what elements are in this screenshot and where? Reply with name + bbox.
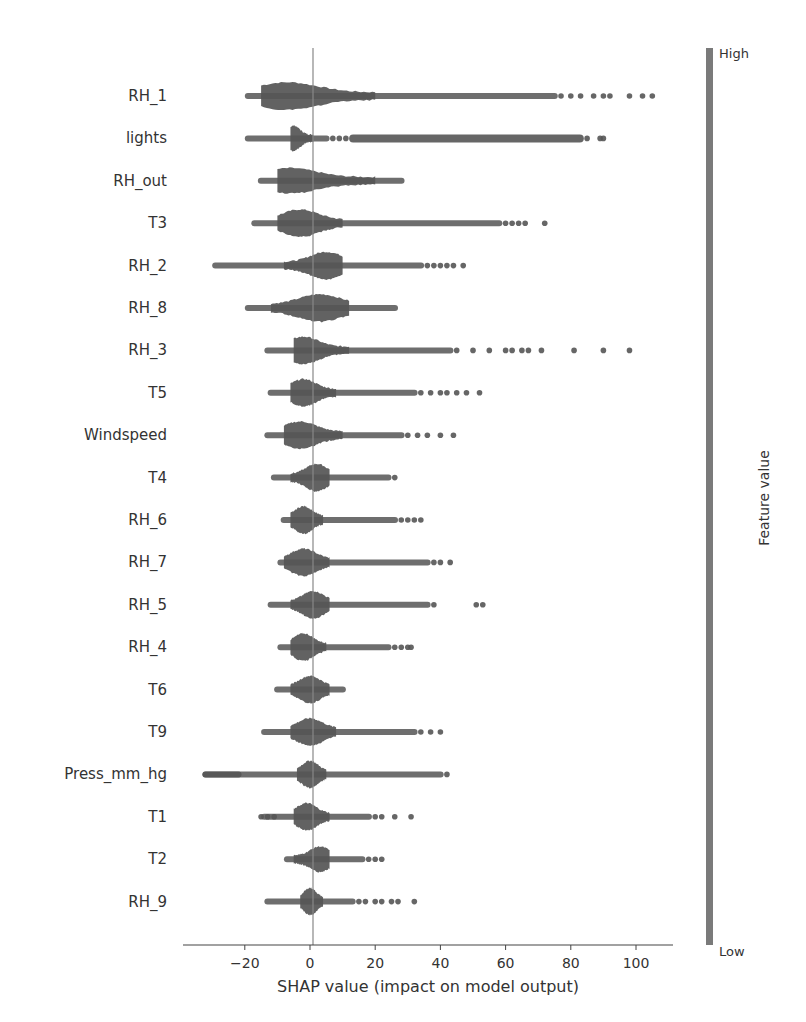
- feature-row: [277, 633, 413, 661]
- feature-label: RH_8: [128, 299, 167, 318]
- x-tick-label: 100: [623, 955, 650, 971]
- colorbar-low-label: Low: [719, 944, 745, 959]
- feature-row: [245, 294, 398, 322]
- feature-label: RH_3: [128, 341, 167, 360]
- feature-row: [251, 209, 547, 237]
- feature-row: [212, 252, 466, 280]
- beeswarm-points: [202, 82, 655, 916]
- feature-label: T4: [147, 469, 167, 487]
- colorbar: [706, 48, 713, 945]
- feature-row: [264, 421, 456, 449]
- feature-label: Press_mm_hg: [64, 765, 167, 784]
- feature-label: RH_4: [128, 638, 167, 657]
- feature-row: [264, 336, 632, 364]
- feature-label: RH_7: [128, 553, 167, 572]
- x-tick-label: −20: [230, 955, 260, 971]
- feature-row: [271, 463, 398, 491]
- feature-row: [245, 82, 655, 110]
- shap-summary-plot: RH_1lightsRH_outT3RH_2RH_8RH_3T5Windspee…: [0, 0, 806, 1022]
- feature-label: RH_6: [128, 511, 167, 530]
- feature-row: [268, 378, 483, 407]
- feature-row: [277, 548, 453, 576]
- feature-label: T6: [147, 681, 167, 699]
- x-axis-ticks: −20020406080100: [230, 945, 649, 971]
- x-tick-label: 20: [366, 955, 384, 971]
- x-tick-label: 60: [497, 955, 515, 971]
- feature-row: [268, 591, 486, 619]
- colorbar-title: Feature value: [756, 450, 772, 546]
- feature-label: T3: [147, 214, 167, 232]
- feature-label: RH_2: [128, 257, 167, 276]
- x-tick-label: 0: [306, 955, 315, 971]
- x-axis-title: SHAP value (impact on model output): [277, 977, 579, 996]
- feature-row: [258, 803, 414, 831]
- feature-label: RH_9: [128, 893, 167, 912]
- feature-label: T5: [147, 384, 167, 402]
- feature-row: [258, 167, 405, 194]
- feature-row: [261, 718, 443, 746]
- feature-row: [245, 125, 606, 152]
- feature-row: [281, 506, 424, 535]
- feature-row: [274, 675, 346, 704]
- feature-label: RH_5: [128, 596, 167, 615]
- feature-label: T2: [147, 850, 167, 868]
- feature-row: [202, 760, 449, 789]
- feature-label: T1: [147, 808, 167, 826]
- colorbar-high-label: High: [719, 46, 749, 61]
- feature-label: RH_out: [113, 172, 167, 191]
- feature-row: [264, 887, 417, 916]
- feature-row: [284, 846, 385, 873]
- feature-label: lights: [126, 129, 167, 147]
- feature-label: Windspeed: [84, 426, 167, 444]
- x-tick-label: 40: [431, 955, 449, 971]
- feature-labels: RH_1lightsRH_outT3RH_2RH_8RH_3T5Windspee…: [64, 87, 167, 912]
- feature-label: T9: [147, 723, 167, 741]
- feature-label: RH_1: [128, 87, 167, 106]
- x-tick-label: 80: [562, 955, 580, 971]
- plot-canvas: RH_1lightsRH_outT3RH_2RH_8RH_3T5Windspee…: [0, 0, 806, 1022]
